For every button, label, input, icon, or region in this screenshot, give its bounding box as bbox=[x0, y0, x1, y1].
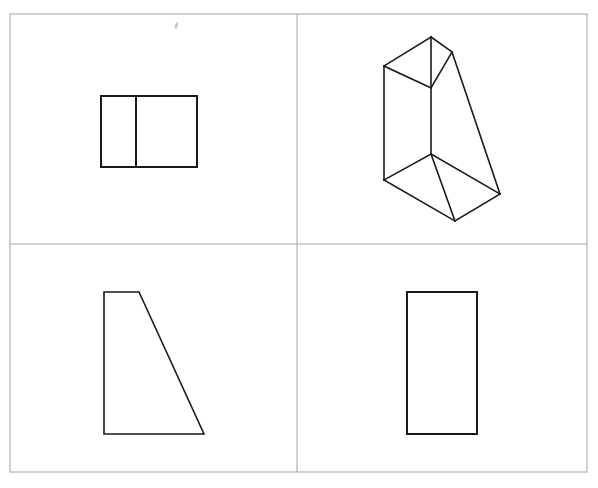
prism-top-face-left-edge bbox=[384, 37, 431, 66]
prism-bottom-front-left-edge bbox=[384, 180, 455, 221]
drawing-canvas bbox=[0, 0, 598, 488]
outer-border bbox=[10, 14, 587, 472]
quadrant-top-left bbox=[101, 96, 197, 167]
prism-bottom-front-right-edge bbox=[455, 194, 500, 221]
top-view-rectangle-outline bbox=[101, 96, 197, 167]
prism-bottom-back-right-edge bbox=[431, 154, 500, 194]
prism-top-face-front-right-edge bbox=[431, 52, 452, 88]
front-view-rectangle-outline bbox=[407, 292, 477, 434]
quadrant-top-right bbox=[384, 37, 500, 221]
quadrant-bottom-right bbox=[407, 292, 477, 434]
prism-top-face-right-edge bbox=[431, 37, 452, 52]
prism-bottom-back-left-edge bbox=[384, 154, 431, 180]
quadrant-bottom-left bbox=[104, 292, 204, 434]
prism-slant-right-edge bbox=[452, 52, 500, 194]
side-view-trapezoid-outline bbox=[104, 292, 204, 434]
worksheet-page: Orthographic Views and Isometric Drawing… bbox=[0, 0, 598, 488]
prism-bottom-diagonal-edge bbox=[431, 154, 455, 221]
scan-speck-mark bbox=[174, 22, 178, 29]
prism-top-face-front-left-edge bbox=[384, 66, 431, 88]
